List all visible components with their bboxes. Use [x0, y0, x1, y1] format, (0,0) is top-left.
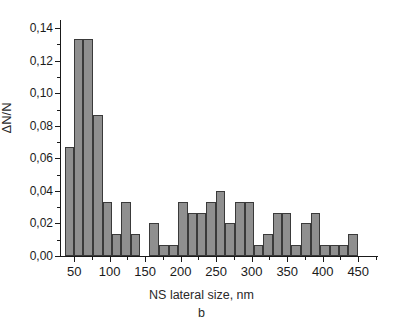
- figure-caption: b: [0, 306, 403, 320]
- x-axis-ticks: 50100150200250300350400450: [60, 257, 378, 269]
- y-tick-label: 0,10: [30, 86, 53, 100]
- x-tick-minor: [340, 257, 341, 260]
- plot-area: 0,000,020,040,060,080,100,120,14: [60, 20, 376, 256]
- bar-series: [60, 20, 376, 256]
- histogram-bar: [178, 202, 188, 256]
- histogram-bar: [197, 213, 206, 256]
- histogram-bar: [149, 223, 159, 256]
- histogram-bar: [112, 234, 121, 256]
- x-tick-label: 200: [170, 264, 192, 279]
- histogram-bar: [320, 245, 330, 256]
- x-tick-label: 450: [347, 264, 369, 279]
- x-tick-label: 400: [312, 264, 334, 279]
- histogram-bar: [245, 202, 254, 256]
- y-tick-label: 0,08: [30, 119, 53, 133]
- histogram-bar: [216, 191, 225, 256]
- histogram-bar: [121, 202, 131, 256]
- x-tick: [110, 257, 111, 262]
- y-tick-label: 0,06: [30, 151, 53, 165]
- x-tick-label: 300: [241, 264, 263, 279]
- x-tick: [287, 257, 288, 262]
- x-tick-minor: [269, 257, 270, 260]
- x-tick: [323, 257, 324, 262]
- x-tick-label: 50: [67, 264, 81, 279]
- x-tick-minor: [376, 257, 377, 260]
- x-tick-label: 350: [276, 264, 298, 279]
- x-tick-label: 250: [205, 264, 227, 279]
- x-tick: [252, 257, 253, 262]
- x-tick: [145, 257, 146, 262]
- y-axis-line: [60, 20, 61, 257]
- x-tick-minor: [163, 257, 164, 260]
- x-axis-label: NS lateral size, nm: [0, 288, 403, 302]
- x-tick-label: 150: [134, 264, 156, 279]
- histogram-bar: [74, 39, 83, 256]
- histogram-bar: [311, 213, 320, 256]
- x-tick: [181, 257, 182, 262]
- x-tick-minor: [92, 257, 93, 260]
- histogram-bar: [254, 245, 263, 256]
- histogram-bar: [235, 202, 245, 256]
- x-tick-minor: [198, 257, 199, 260]
- histogram-figure: ΔN/N 0,000,020,040,060,080,100,120,14 50…: [0, 0, 403, 330]
- histogram-bar: [291, 245, 301, 256]
- y-tick-label: 0,00: [30, 249, 53, 263]
- x-tick-minor: [127, 257, 128, 260]
- histogram-bar: [282, 213, 291, 256]
- x-tick: [216, 257, 217, 262]
- histogram-bar: [169, 245, 178, 256]
- histogram-bar: [339, 245, 348, 256]
- histogram-bar: [65, 147, 74, 256]
- histogram-bar: [206, 202, 216, 256]
- histogram-bar: [348, 234, 358, 256]
- histogram-bar: [103, 202, 112, 256]
- x-tick: [74, 257, 75, 262]
- histogram-bar: [301, 223, 310, 256]
- histogram-bar: [225, 223, 234, 256]
- histogram-bar: [188, 213, 197, 256]
- y-tick-label: 0,14: [30, 21, 53, 35]
- x-tick-minor: [234, 257, 235, 260]
- y-tick-label: 0,04: [30, 184, 53, 198]
- x-tick: [358, 257, 359, 262]
- x-tick-minor: [305, 257, 306, 260]
- histogram-bar: [93, 115, 103, 256]
- histogram-bar: [159, 245, 168, 256]
- histogram-bar: [273, 213, 282, 256]
- histogram-bar: [330, 245, 339, 256]
- y-tick-label: 0,12: [30, 54, 53, 68]
- histogram-bar: [83, 39, 92, 256]
- y-axis-label: ΔN/N: [0, 102, 14, 133]
- histogram-bar: [131, 234, 140, 256]
- x-tick-label: 100: [99, 264, 121, 279]
- y-tick-label: 0,02: [30, 216, 53, 230]
- histogram-bar: [263, 234, 273, 256]
